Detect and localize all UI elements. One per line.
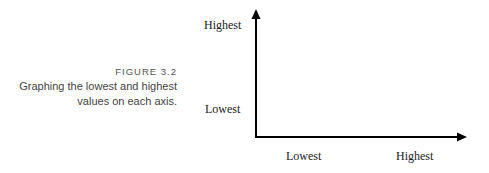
axes-diagram [0,0,489,173]
x-axis-arrow-icon [457,133,467,142]
y-axis-arrow-icon [252,9,261,19]
x-axis-label-highest: Highest [396,149,433,164]
y-axis-label-lowest: Lowest [205,102,240,117]
x-axis-label-lowest: Lowest [286,149,321,164]
y-axis-label-highest: Highest [204,18,241,33]
